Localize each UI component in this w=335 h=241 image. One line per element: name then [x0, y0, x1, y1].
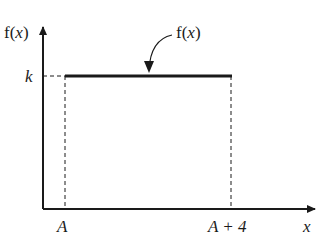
- x-axis-label: x: [302, 217, 311, 236]
- y-axis-label: f(x): [4, 23, 29, 42]
- pointer-arrowhead-icon: [144, 61, 154, 73]
- tick-label-a-plus-4: A + 4: [207, 217, 247, 236]
- k-label: k: [25, 67, 33, 86]
- pointer-arrow: [149, 35, 172, 70]
- uniform-pdf-diagram: f(x) f(x) k A A + 4 x: [0, 0, 335, 241]
- curve-label: f(x): [176, 23, 201, 42]
- tick-label-a: A: [56, 217, 68, 236]
